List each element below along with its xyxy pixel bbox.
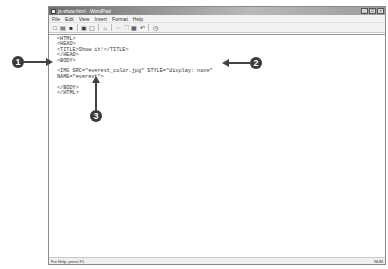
callout-2-arrow — [228, 62, 250, 64]
wordpad-app-icon[interactable] — [51, 9, 56, 14]
callout-1-arrow — [24, 61, 48, 63]
menu-view[interactable]: View — [79, 15, 90, 23]
callout-1-arrowhead — [46, 58, 53, 66]
document-text-area[interactable]: <HTML> <HEAD> <TITLE>Show it!</TITLE> </… — [49, 34, 385, 257]
find-icon[interactable]: ⌂ — [102, 25, 108, 31]
menu-help[interactable]: Help — [133, 15, 143, 23]
toolbar-separator — [148, 24, 149, 31]
callout-3-arrowhead — [92, 76, 100, 83]
callout-2: 2 — [250, 57, 262, 69]
open-icon[interactable]: ▤ — [60, 25, 66, 31]
new-icon[interactable]: □ — [52, 25, 58, 31]
toolbar-separator — [98, 24, 99, 31]
code-line: </HTML> — [57, 91, 385, 96]
callout-1: 1 — [12, 56, 24, 68]
close-button[interactable]: × — [377, 8, 384, 14]
print-icon[interactable]: ▣ — [81, 25, 87, 31]
menu-file[interactable]: File — [52, 15, 60, 23]
callout-3-arrow — [95, 82, 97, 110]
copy-icon[interactable]: ❐ — [123, 25, 129, 31]
status-bar: For Help, press F1 NUM — [49, 257, 385, 264]
status-num-indicator: NUM — [374, 258, 383, 265]
toolbar: □ ▤ ■ ▣ ▢ ⌂ ✂ ❐ ▦ ↶ ◷ — [49, 23, 385, 33]
cut-icon[interactable]: ✂ — [115, 25, 121, 31]
print-preview-icon[interactable]: ▢ — [89, 25, 95, 31]
toolbar-separator — [111, 24, 112, 31]
window-controls: _ □ × — [361, 8, 385, 14]
callout-3: 3 — [90, 110, 102, 122]
menu-insert[interactable]: Insert — [94, 15, 107, 23]
maximize-button[interactable]: □ — [369, 8, 376, 14]
insert-datetime-icon[interactable]: ◷ — [152, 25, 158, 31]
callout-2-arrowhead — [222, 59, 229, 67]
undo-icon[interactable]: ↶ — [139, 25, 145, 31]
toolbar-separator — [77, 24, 78, 31]
menu-edit[interactable]: Edit — [65, 15, 74, 23]
minimize-button[interactable]: _ — [361, 8, 368, 14]
status-help-text: For Help, press F1 — [51, 258, 84, 265]
paste-icon[interactable]: ▦ — [131, 25, 137, 31]
wordpad-window: js-show.html - WordPad _ □ × File Edit V… — [48, 6, 386, 265]
menu-format[interactable]: Format — [112, 15, 128, 23]
menu-bar: File Edit View Insert Format Help — [49, 15, 385, 23]
save-icon[interactable]: ■ — [68, 25, 74, 31]
